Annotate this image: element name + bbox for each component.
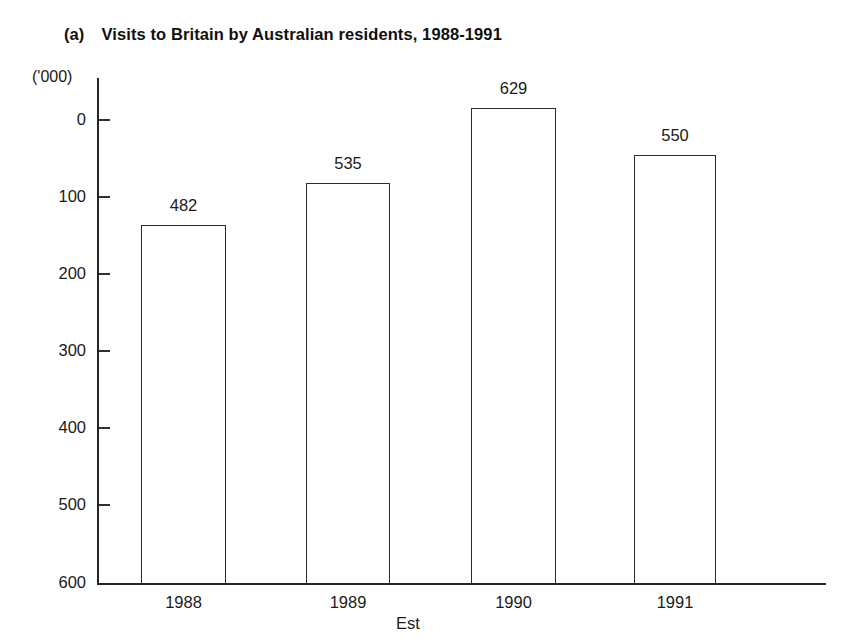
y-axis-tick-label: 500 — [26, 496, 86, 512]
x-axis-note-text: Est — [396, 614, 420, 632]
x-axis-tick-label-1990: 1990 — [441, 594, 586, 611]
y-axis-tick-label: 400 — [26, 419, 86, 435]
bar-value-label-1991: 550 — [604, 127, 746, 144]
y-axis-tick-label-text: 200 — [26, 265, 86, 282]
y-axis-unit-label: ('000) — [32, 68, 72, 86]
y-axis-tick-mark — [99, 273, 110, 275]
y-axis-tick-label: 600 — [26, 574, 86, 590]
bar-1988[interactable] — [141, 225, 226, 583]
y-axis-tick-label-text: 0 — [26, 111, 86, 128]
y-axis-tick-mark — [99, 119, 110, 121]
bar-value-label-1989: 535 — [276, 155, 420, 172]
y-axis-tick-label-text: 600 — [26, 574, 86, 591]
y-axis-tick-label: 0 — [26, 111, 86, 127]
x-axis-tick-label-1991: 1991 — [604, 594, 746, 611]
y-axis-tick-label: 300 — [26, 342, 86, 358]
y-axis-tick-mark — [99, 427, 110, 429]
y-axis-tick-mark — [99, 504, 110, 506]
x-axis-line — [97, 583, 826, 585]
bar-1989[interactable] — [306, 183, 390, 583]
y-axis-tick-label: 200 — [26, 265, 86, 281]
plot-area: ('000) 0100200300400500600 482535629550 … — [0, 0, 866, 643]
x-axis-note: Est — [0, 614, 866, 633]
bar-1991[interactable] — [634, 155, 716, 583]
y-axis-tick-mark — [99, 196, 110, 198]
bar-value-label-1988: 482 — [111, 197, 256, 214]
y-axis-tick-label: 100 — [26, 188, 86, 204]
x-axis-tick-label-1989: 1989 — [276, 594, 420, 611]
y-axis-tick-mark — [99, 350, 110, 352]
y-axis-line — [97, 78, 99, 584]
x-axis-tick-label-1988: 1988 — [111, 594, 256, 611]
bar-1990[interactable] — [471, 108, 556, 583]
y-axis-tick-label-text: 400 — [26, 419, 86, 436]
figure-panel: (a)Visits to Britain by Australian resid… — [0, 0, 866, 643]
y-axis-tick-label-text: 300 — [26, 342, 86, 359]
bar-value-label-1990: 629 — [441, 80, 586, 97]
y-axis-tick-label-text: 500 — [26, 496, 86, 513]
y-axis-tick-label-text: 100 — [26, 188, 86, 205]
